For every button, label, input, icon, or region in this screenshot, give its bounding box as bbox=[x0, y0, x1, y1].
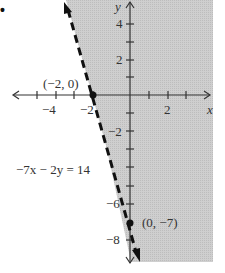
point-0-neg7 bbox=[127, 220, 134, 227]
x-tick-neg4: −4 bbox=[42, 103, 56, 116]
equation-label: −7x − 2y = 14 bbox=[16, 163, 90, 176]
y-axis-label: y bbox=[115, 0, 121, 13]
y-tick-neg8: −8 bbox=[106, 233, 120, 246]
point-label-neg2-0: (−2, 0) bbox=[43, 77, 79, 90]
x-axis-label: x bbox=[207, 103, 213, 116]
point-label-0-neg7: (0, −7) bbox=[142, 216, 178, 229]
y-tick-neg2: −2 bbox=[108, 125, 122, 138]
y-tick-neg6: −6 bbox=[106, 197, 120, 210]
x-tick-2: 2 bbox=[164, 103, 171, 116]
y-tick-2: 2 bbox=[116, 53, 123, 66]
y-tick-4: 4 bbox=[116, 17, 123, 30]
point-neg2-0 bbox=[90, 92, 97, 99]
x-tick-neg2: −2 bbox=[80, 103, 94, 116]
